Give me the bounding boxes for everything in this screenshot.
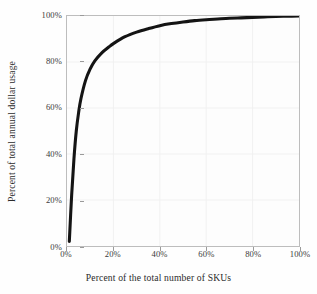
x-tick-mark [206,247,207,251]
x-axis-ticks: 0%20%40%60%80%100% [0,250,317,266]
x-tick-label: 20% [93,250,133,259]
x-tick-label: 0% [46,250,86,259]
y-tick-mark [80,108,84,109]
y-tick-mark [80,201,84,202]
y-tick-mark [80,247,84,248]
y-tick-label: 40% [22,150,62,159]
x-tick-label: 60% [186,250,226,259]
x-tick-label: 80% [233,250,273,259]
x-tick-label: 40% [140,250,180,259]
y-tick-label: 20% [22,196,62,205]
x-tick-mark [300,247,301,251]
y-tick-mark [80,15,84,16]
x-tick-mark [66,247,67,251]
plot-area [66,15,300,247]
y-tick-mark [80,154,84,155]
chart-figure: 0%20%40%60%80%100% 0%20%40%60%80%100% Pe… [0,0,317,294]
y-axis-label-container: Percent of total annual dollar usage [0,0,22,262]
x-tick-mark [113,247,114,251]
y-tick-label: 100% [22,11,62,20]
x-axis-label: Percent of the total number of SKUs [0,272,317,283]
series-cumulative-annual-dollar-usage [67,16,299,246]
x-tick-mark [253,247,254,251]
x-tick-mark [160,247,161,251]
y-tick-label: 60% [22,103,62,112]
y-axis-label: Percent of total annual dollar usage [6,61,17,202]
y-tick-label: 80% [22,57,62,66]
y-tick-mark [80,61,84,62]
x-tick-label: 100% [280,250,317,259]
